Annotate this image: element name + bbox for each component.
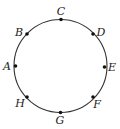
point-dot [25, 95, 29, 99]
point-label: F [92, 98, 101, 111]
point-dot [25, 32, 29, 36]
point-label: D [96, 26, 106, 39]
point-label: A [2, 60, 11, 73]
point-f: F [91, 95, 101, 111]
point-dot [91, 32, 95, 36]
point-g: G [56, 111, 65, 127]
point-a: A [2, 60, 17, 73]
point-c: C [57, 5, 66, 21]
point-dot [14, 64, 18, 68]
point-b: B [14, 26, 29, 39]
point-label: B [14, 26, 23, 39]
point-dot [59, 18, 63, 22]
point-h: H [14, 95, 29, 110]
circle-diagram: ABCDEFGH [0, 0, 120, 129]
point-label: E [107, 61, 116, 74]
point-dot [103, 65, 107, 69]
point-e: E [103, 61, 116, 74]
points-layer: ABCDEFGH [2, 5, 116, 127]
point-label: H [14, 97, 25, 110]
point-label: G [56, 114, 65, 127]
point-d: D [91, 26, 105, 39]
point-label: C [57, 5, 66, 18]
